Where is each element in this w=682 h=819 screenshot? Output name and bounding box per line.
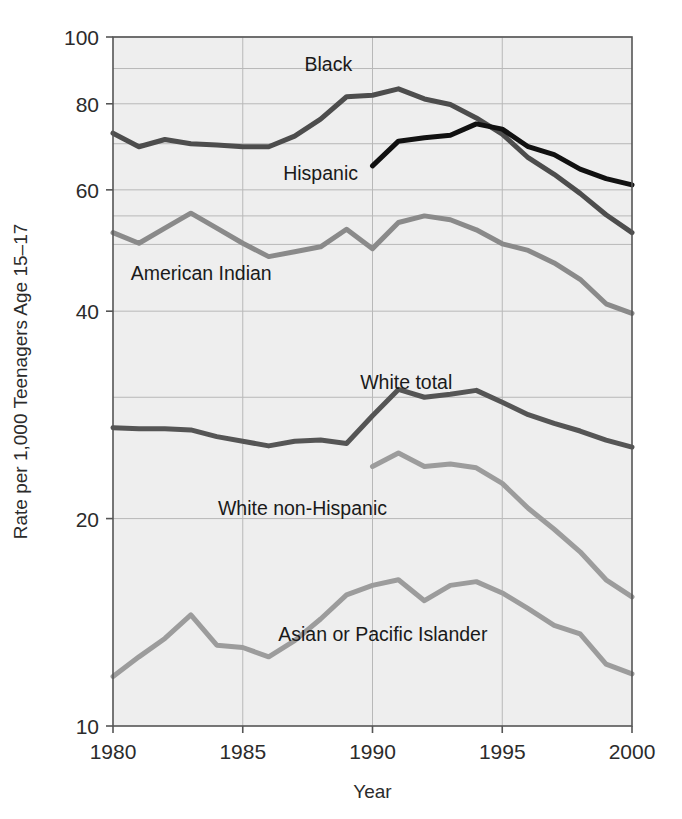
y-tick-label-60: 60 <box>76 179 99 202</box>
y-tick-label-80: 80 <box>76 93 99 116</box>
y-tick-label-100: 100 <box>64 26 99 49</box>
series-label-hispanic: Hispanic <box>283 162 358 184</box>
y-tick-label-10: 10 <box>76 715 99 738</box>
x-tick-labels: 19801985199019952000 <box>90 726 656 763</box>
series-label-american-indian: American Indian <box>131 262 272 284</box>
series-label-black: Black <box>305 53 353 75</box>
x-tick-label-1980: 1980 <box>90 740 137 763</box>
series-label-white-non-hispanic: White non-Hispanic <box>218 497 387 519</box>
x-tick-label-2000: 2000 <box>609 740 656 763</box>
chart-page: 1020406080100 19801985199019952000 Black… <box>0 0 682 819</box>
x-tick-label-1985: 1985 <box>219 740 266 763</box>
y-axis-title: Rate per 1,000 Teenagers Age 15–17 <box>10 224 31 540</box>
series-label-asian-or-pacific-islander: Asian or Pacific Islander <box>278 623 488 645</box>
series-label-white-total: White total <box>360 371 452 393</box>
x-tick-label-1990: 1990 <box>349 740 396 763</box>
y-tick-labels: 1020406080100 <box>64 26 113 738</box>
y-tick-label-20: 20 <box>76 508 99 531</box>
y-tick-label-40: 40 <box>76 300 99 323</box>
teen-birth-rate-line-chart: 1020406080100 19801985199019952000 Black… <box>0 0 682 819</box>
x-tick-label-1995: 1995 <box>479 740 526 763</box>
x-axis-title: Year <box>353 781 392 802</box>
